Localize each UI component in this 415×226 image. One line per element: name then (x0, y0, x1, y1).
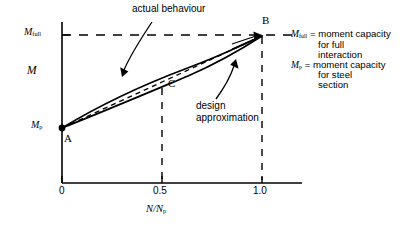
x-axis-title-subscript: p (163, 207, 166, 214)
y-tick-label-mfull: Mfull (24, 27, 41, 38)
legend-mfull-symbol: M (291, 28, 299, 39)
legend-entry-mfull: Mfull = moment capacity for full interac… (291, 29, 391, 60)
interaction-diagram-figure: M Mfull Mp 0 0.5 1.0 N/Np A B C actual b… (0, 0, 415, 226)
legend: Mfull = moment capacity for full interac… (291, 29, 391, 90)
legend-entry-mp: Mp = moment capacity for steel section (291, 60, 391, 91)
y-tick-mp-subscript: p (39, 123, 42, 130)
arrow-design-approximation-head (230, 59, 238, 69)
x-tick-label-one: 1.0 (253, 186, 267, 197)
legend-mp-symbol: M (291, 59, 299, 70)
legend-mp-line3: section (291, 80, 391, 90)
point-label-c: C (168, 78, 175, 90)
annotation-design-line1: design (196, 100, 225, 111)
legend-mfull-subscript: full (299, 33, 307, 39)
x-tick-label-zero: 0 (59, 186, 65, 197)
y-tick-mfull-subscript: full (32, 30, 41, 37)
legend-mp-definition: = moment capacity (305, 59, 386, 70)
annotation-design-approximation: design approximation (196, 101, 259, 123)
arrow-actual-behaviour (124, 22, 152, 70)
x-axis-title: N/Np (146, 203, 166, 215)
arrow-design-approximation (216, 66, 234, 99)
point-a-marker (59, 125, 66, 132)
legend-mp-subscript: p (299, 64, 302, 70)
x-axis-title-main: N/N (146, 203, 163, 214)
point-label-a: A (64, 133, 72, 145)
legend-entry-mfull-head: Mfull = moment capacity (291, 29, 391, 40)
annotation-design-line2: approximation (196, 113, 259, 124)
y-tick-label-mp: Mp (31, 120, 42, 131)
y-axis-title: M (27, 64, 37, 76)
x-tick-label-half: 0.5 (153, 186, 167, 197)
annotation-actual-behaviour: actual behaviour (132, 4, 205, 15)
point-label-b: B (262, 15, 269, 27)
legend-mfull-definition: = moment capacity (310, 28, 391, 39)
